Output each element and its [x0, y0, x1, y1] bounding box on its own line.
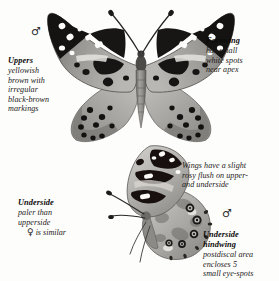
- note-underside-hindwing-heading-2: hindwing: [203, 240, 279, 250]
- note-wings-flush-line-3: and underside: [182, 180, 278, 190]
- note-wings-flush-line-2: rosy flush on upper-: [182, 171, 278, 181]
- note-underside-hindwing-line-3: small eye-spots: [203, 269, 279, 279]
- note-underside-heading: Underside: [18, 198, 90, 208]
- note-uppers-line-4: black-brown: [8, 95, 70, 105]
- note-underside: Underside paler than upperside: [18, 198, 90, 227]
- female-symbol: ♀: [27, 227, 34, 237]
- note-underside-hindwing-line-2: encloses 5: [203, 260, 279, 270]
- note-wings-flush: Wings have a slight rosy flush on upper-…: [182, 161, 278, 190]
- note-uppers-line-3: irregular: [8, 85, 70, 95]
- note-underside-hindwing-line-1: postdiscal area: [203, 250, 279, 260]
- note-uppers-heading: Uppers: [8, 56, 70, 66]
- note-uppers-line-2: brown with: [8, 76, 70, 86]
- note-wings-flush-line-1: Wings have a slight: [182, 161, 278, 171]
- male-symbol-underside: ♂: [222, 208, 232, 219]
- upperside-specimen: [46, 4, 236, 146]
- note-forewing-line-3: near apex: [206, 65, 276, 75]
- note-female-similar-text: is similar: [36, 228, 66, 237]
- note-underside-hindwing-heading-1: Underside: [203, 230, 279, 240]
- note-underside-line-1: paler than: [18, 208, 90, 218]
- note-forewing-line-2: white spots: [206, 56, 276, 66]
- note-underside-line-2: upperside: [18, 218, 90, 228]
- male-symbol-upperside: ♂: [31, 26, 41, 37]
- note-uppers: Uppers yellowish brown with irregular bl…: [8, 56, 70, 114]
- note-forewing: Forewing has small white spots near apex: [206, 36, 276, 75]
- note-forewing-line-1: has small: [206, 46, 276, 56]
- note-underside-hindwing: Underside hindwing postdiscal area enclo…: [203, 230, 279, 279]
- note-female-similar: ♀ is similar: [27, 228, 66, 238]
- note-uppers-line-1: yellowish: [8, 66, 70, 76]
- field-guide-plate: ♂ ♂ Uppers yellowish brown with irregula…: [0, 0, 279, 281]
- note-forewing-heading: Forewing: [206, 36, 276, 46]
- note-uppers-line-5: markings: [8, 104, 70, 114]
